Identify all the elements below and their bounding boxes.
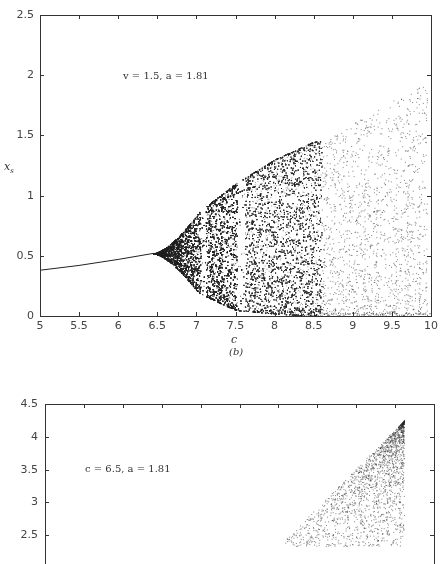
y-tick-label: 0.5 [4,249,34,262]
x-tick-label: 5.5 [64,319,94,332]
x-tick-label: 8 [260,319,290,332]
bottom-plot-annotation: c = 6.5, a = 1.81 [85,463,171,474]
y-tick-label: 2.5 [8,528,38,541]
y-tick-label: 2.5 [4,8,34,21]
y-tick-label: 4 [8,430,38,443]
top-y-axis-title: xs [4,160,14,175]
x-tick-label: 9.5 [377,319,407,332]
top-plot-frame [40,15,432,317]
x-tick-label: 6 [103,319,133,332]
panel-label: (b) [229,346,243,357]
y-label-subscript: s [10,167,14,175]
y-tick-label: 3 [8,495,38,508]
bottom-plot-frame [45,404,435,564]
x-tick-label: 7 [181,319,211,332]
x-tick-label: 6.5 [142,319,172,332]
top-plot-annotation: v = 1.5, a = 1.81 [123,70,209,81]
x-tick-label: 9 [338,319,368,332]
y-tick-label: 1.5 [4,128,34,141]
y-tick-label: 1 [4,189,34,202]
x-tick-label: 7.5 [221,319,251,332]
y-tick-label: 2 [4,68,34,81]
y-tick-label: 4.5 [8,397,38,410]
x-tick-label: 5 [25,319,55,332]
y-tick-label: 3.5 [8,463,38,476]
x-tick-label: 10 [416,319,440,332]
top-x-axis-title: c [231,333,237,346]
x-tick-label: 8.5 [299,319,329,332]
